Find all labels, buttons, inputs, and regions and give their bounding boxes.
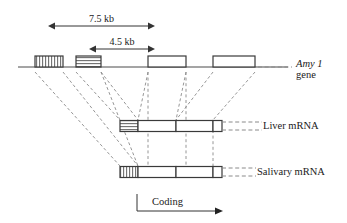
gene-label-sub: gene <box>296 69 316 80</box>
liver-segment-1 <box>120 121 138 132</box>
gene-exon-4 <box>213 56 255 67</box>
dimension-label-7-5kb: 7.5 kb <box>89 14 114 25</box>
splice-gene-to-liver-5 <box>213 72 255 120</box>
salivary-segment-4 <box>213 167 222 178</box>
splice-gene-to-salivary-0 <box>35 72 120 166</box>
liver-segment-2 <box>138 121 176 132</box>
gene-label: Amy 1 gene <box>296 58 323 80</box>
splice-gene-to-salivary-2 <box>101 72 138 166</box>
gene-exon-2 <box>76 56 101 67</box>
salivary-mrna-track <box>120 167 222 178</box>
liver-mrna-track <box>120 121 222 132</box>
splice-gene-to-liver-0 <box>76 72 120 120</box>
liver-mrna-label: Liver mRNA <box>263 120 319 131</box>
splice-gene-to-salivary-1 <box>63 72 138 166</box>
dimension-label-4-5kb: 4.5 kb <box>110 37 135 48</box>
liver-segment-3 <box>176 121 213 132</box>
diagram-svg <box>0 0 347 223</box>
gene-track <box>18 56 288 67</box>
gene-exon-3 <box>148 56 186 67</box>
salivary-segment-2 <box>138 167 176 178</box>
salivary-segment-3 <box>176 167 213 178</box>
salivary-mrna-label: Salivary mRNA <box>257 166 325 177</box>
splice-gene-to-liver-3 <box>176 72 186 120</box>
gene-exon-1 <box>35 56 63 67</box>
figure-canvas: 7.5 kb 4.5 kb Amy 1 gene Liver mRNA Sali… <box>0 0 347 223</box>
splice-gene-to-liver-4 <box>176 72 213 120</box>
liver-segment-4 <box>213 121 222 132</box>
salivary-segment-1 <box>120 167 138 178</box>
splice-gene-to-liver-2 <box>138 72 148 120</box>
gene-label-name: Amy 1 <box>296 58 323 69</box>
coding-label: Coding <box>152 196 183 207</box>
splice-gene-to-liver-1 <box>101 72 138 120</box>
